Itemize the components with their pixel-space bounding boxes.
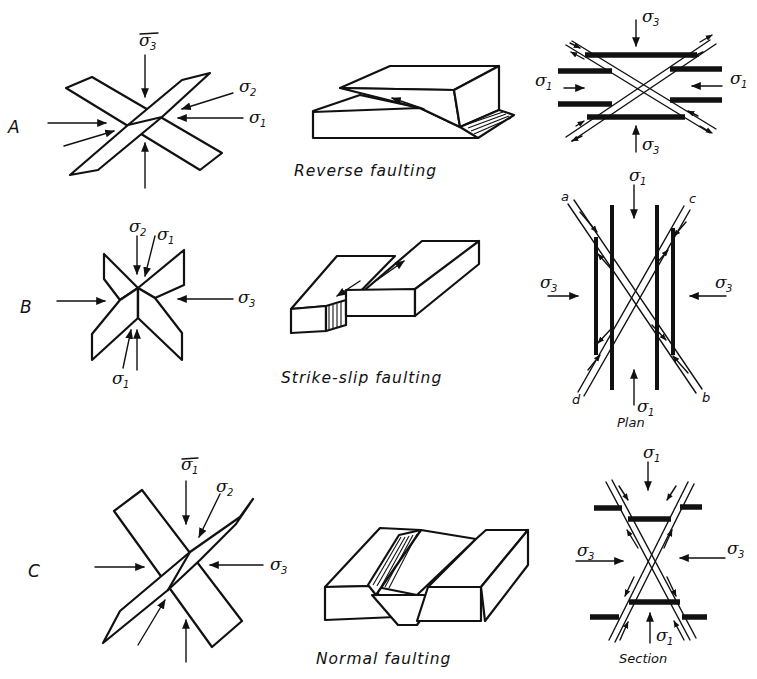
strike-slip-block	[291, 241, 479, 333]
svg-text:2: 2	[140, 227, 146, 238]
row-b-stress-block: σ 2 σ 1 σ 3 σ 1	[57, 216, 255, 390]
svg-text:3: 3	[653, 17, 659, 28]
caption-normal-faulting: Normal faulting	[316, 650, 451, 668]
svg-text:1: 1	[192, 465, 198, 476]
svg-text:1: 1	[741, 79, 747, 90]
svg-text:1: 1	[667, 636, 673, 647]
svg-text:3: 3	[653, 145, 659, 156]
caption-reverse-faulting: Reverse faulting	[294, 162, 437, 180]
row-label-b: B	[20, 297, 32, 317]
caption-strike-slip-faulting: Strike-slip faulting	[281, 369, 442, 387]
svg-text:3: 3	[281, 565, 287, 576]
svg-text:3: 3	[551, 283, 557, 294]
section-caption: Section	[619, 651, 667, 666]
normal-section-view: σ 1 σ 1 σ 3 σ 3 Section	[576, 442, 744, 666]
svg-text:1: 1	[640, 176, 646, 187]
svg-text:1: 1	[168, 235, 174, 246]
row-a-stress-block: σ 3 σ 2 σ 1	[48, 30, 266, 188]
row-label-c: C	[28, 561, 40, 581]
svg-text:3: 3	[738, 549, 744, 560]
strike-slip-plan-view: σ 1 σ 1 σ 3 σ 3 a c d b Plan	[540, 165, 732, 430]
svg-text:3: 3	[150, 41, 156, 52]
plan-caption: Plan	[617, 415, 645, 430]
faulting-diagram: A σ 3 σ 2 σ 1	[0, 0, 757, 679]
svg-text:1: 1	[546, 81, 552, 92]
svg-text:3: 3	[726, 283, 732, 294]
svg-text:3: 3	[588, 551, 594, 562]
svg-text:2: 2	[250, 87, 256, 98]
corner-d: d	[572, 392, 581, 407]
svg-text:1: 1	[648, 407, 654, 418]
svg-text:1: 1	[123, 379, 129, 390]
svg-text:1: 1	[654, 453, 660, 464]
svg-text:3: 3	[249, 298, 255, 309]
reverse-plan-view: σ 3 σ 3 σ 1 σ 1	[535, 6, 747, 156]
row-c-stress-block: σ 1 σ 2 σ 3	[95, 454, 287, 662]
corner-c: c	[689, 191, 696, 206]
normal-fault-block	[325, 528, 528, 625]
svg-text:2: 2	[227, 487, 233, 498]
row-label-a: A	[7, 117, 20, 137]
reverse-fault-block	[313, 66, 514, 138]
svg-text:1: 1	[260, 118, 266, 129]
corner-b: b	[702, 390, 710, 405]
corner-a: a	[561, 189, 569, 204]
